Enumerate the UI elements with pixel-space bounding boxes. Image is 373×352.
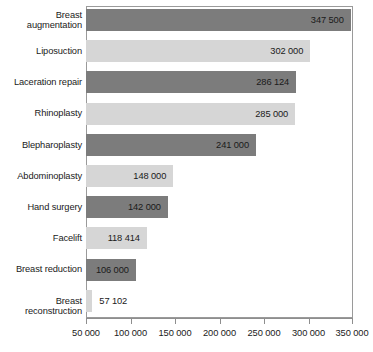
category-label: Laceration repair xyxy=(0,77,82,88)
category-axis-labels: Breast augmentationLiposuctionLaceration… xyxy=(0,6,84,318)
bar-value-label: 118 414 xyxy=(108,227,140,249)
bars-layer: 347 500302 000286 124285 000241 000148 0… xyxy=(86,6,353,318)
category-label: Breast augmentation xyxy=(0,10,82,31)
bar-row: 285 000 xyxy=(86,103,295,125)
bar-row: 148 000 xyxy=(86,165,173,187)
x-axis-tick xyxy=(352,319,353,324)
bar-value-label: 142 000 xyxy=(128,196,161,218)
bar-value-label: 285 000 xyxy=(255,103,288,125)
category-label: Rhinoplasty xyxy=(0,108,82,119)
bar-value-label: 347 500 xyxy=(311,9,344,31)
bar-row: 241 000 xyxy=(86,134,256,156)
x-axis-tick xyxy=(131,319,132,324)
category-label: Blepharoplasty xyxy=(0,140,82,151)
bar-value-label: 106 000 xyxy=(96,259,129,281)
x-axis-tick xyxy=(220,319,221,324)
category-label: Liposuction xyxy=(0,46,82,57)
category-label: Hand surgery xyxy=(0,202,82,213)
category-label: Breast reduction xyxy=(0,264,82,275)
category-label: Abdominoplasty xyxy=(0,171,82,182)
bar-value-label: 302 000 xyxy=(270,40,303,62)
bar-value-label: 57 102 xyxy=(99,290,127,312)
bar-chart: Breast augmentationLiposuctionLaceration… xyxy=(0,0,373,352)
bar-row: 286 124 xyxy=(86,71,296,93)
x-axis-tick xyxy=(264,319,265,324)
bar-row: 106 000 xyxy=(86,259,136,281)
x-axis-tick xyxy=(175,319,176,324)
bar-value-label: 286 124 xyxy=(256,71,289,93)
bar-row: 302 000 xyxy=(86,40,310,62)
category-label: Breast reconstruction xyxy=(0,296,82,317)
bar-row: 118 414 xyxy=(86,227,147,249)
x-axis-tick-label: 50 000 xyxy=(72,328,100,338)
x-axis-tick-label: 300 000 xyxy=(292,328,325,338)
x-axis-tick-label: 100 000 xyxy=(114,328,147,338)
bar xyxy=(86,290,92,312)
x-axis-ticks: 50 000100 000150 000200 000250 000300 00… xyxy=(86,319,353,349)
bar-value-label: 148 000 xyxy=(133,165,166,187)
x-axis-tick-label: 350 000 xyxy=(336,328,369,338)
bar-row: 57 102 xyxy=(86,290,92,312)
bar-row: 142 000 xyxy=(86,196,168,218)
x-axis-tick xyxy=(309,319,310,324)
category-label: Facelift xyxy=(0,233,82,244)
x-axis-tick-label: 200 000 xyxy=(203,328,236,338)
x-axis-tick-label: 150 000 xyxy=(159,328,192,338)
bar-row: 347 500 xyxy=(86,9,351,31)
bar-value-label: 241 000 xyxy=(216,134,249,156)
x-axis-tick-label: 250 000 xyxy=(248,328,281,338)
x-axis-tick xyxy=(86,319,87,324)
